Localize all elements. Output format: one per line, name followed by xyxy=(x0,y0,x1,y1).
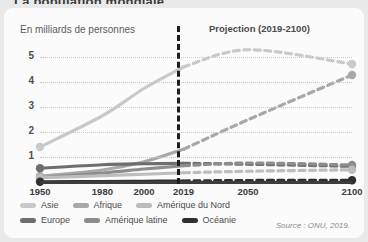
y-axis-caption: En milliards de personnes xyxy=(20,24,135,35)
legend-item[interactable]: Océanie xyxy=(182,215,237,225)
y-tick-label: 2 xyxy=(12,125,34,136)
x-tick-label: 2000 xyxy=(124,186,164,197)
gridline xyxy=(40,132,352,133)
legend-item[interactable]: Europe xyxy=(20,215,70,225)
projection-title: Projection (2019-2100) xyxy=(209,23,310,34)
legend-label: Afrique xyxy=(94,200,123,210)
legend-swatch-icon xyxy=(73,203,89,208)
legend-label: Amérique du Nord xyxy=(157,200,230,210)
legend-item[interactable]: Afrique xyxy=(73,200,123,210)
series-endpoint-dot-start xyxy=(36,143,44,151)
clipped-headline: La population mondiale xyxy=(14,0,164,4)
series-endpoint-dot-end xyxy=(348,60,356,68)
legend-row: AsieAfriqueAmérique du Nord xyxy=(20,200,350,210)
gridline xyxy=(40,107,352,108)
chart-page: La population mondiale En milliards de p… xyxy=(0,0,368,242)
gridline xyxy=(40,157,352,158)
chart-card: En milliards de personnes Projection (20… xyxy=(4,8,364,238)
y-tick-label: 3 xyxy=(12,100,34,111)
series-line-am-rique-du-nord xyxy=(184,170,352,173)
x-tick-label: 2019 xyxy=(164,186,204,197)
x-tick-label: 2100 xyxy=(332,186,364,197)
legend-item[interactable]: Amérique du Nord xyxy=(136,200,230,210)
y-tick-label: 4 xyxy=(12,75,34,86)
legend-swatch-icon xyxy=(136,203,152,208)
legend-label: Asie xyxy=(41,200,59,210)
legend-swatch-icon xyxy=(84,218,100,223)
legend-swatch-icon xyxy=(20,218,36,223)
y-tick-label: 5 xyxy=(12,50,34,61)
legend-label: Amérique latine xyxy=(105,215,168,225)
x-tick-label: 1980 xyxy=(82,186,122,197)
x-tick-label: 1950 xyxy=(20,186,60,197)
series-line-asie xyxy=(184,50,352,67)
legend-label: Europe xyxy=(41,215,70,225)
x-axis-line xyxy=(40,181,352,184)
series-endpoint-dot-end xyxy=(348,166,356,174)
legend-swatch-icon xyxy=(20,203,36,208)
series-line-afrique xyxy=(184,75,352,149)
series-lines xyxy=(40,42,352,182)
y-tick-label: 1 xyxy=(12,150,34,161)
legend-item[interactable]: Amérique latine xyxy=(84,215,168,225)
series-endpoint-dot-end xyxy=(348,71,356,79)
series-endpoint-dot-start xyxy=(36,164,44,172)
gridline xyxy=(40,57,352,58)
gridline xyxy=(40,82,352,83)
projection-divider xyxy=(177,26,180,184)
legend-label: Océanie xyxy=(203,215,237,225)
legend-swatch-icon xyxy=(182,218,198,223)
source-note: Source : ONU, 2019. xyxy=(276,221,350,230)
plot-area xyxy=(40,42,352,182)
legend-item[interactable]: Asie xyxy=(20,200,59,210)
x-tick-label: 2050 xyxy=(228,186,268,197)
